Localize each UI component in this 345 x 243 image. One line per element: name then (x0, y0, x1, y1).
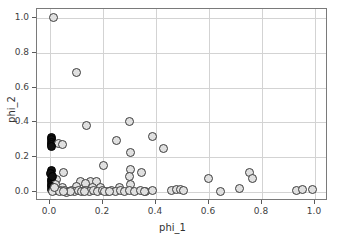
data-point (248, 174, 257, 183)
gridline-vertical (103, 9, 104, 199)
data-point (59, 168, 68, 177)
data-point (159, 144, 168, 153)
x-tick-mark (49, 200, 50, 204)
data-point (308, 185, 317, 194)
data-point (125, 117, 134, 126)
data-point (216, 187, 225, 196)
x-tick-mark (208, 200, 209, 204)
x-tick-mark (314, 200, 315, 204)
x-tick-label: 0.2 (95, 206, 109, 216)
y-tick-mark (32, 121, 36, 122)
y-tick-label: 0.0 (2, 186, 29, 196)
x-tick-label: 0.8 (254, 206, 268, 216)
y-tick-mark (32, 17, 36, 18)
data-point (137, 168, 146, 177)
gridline-horizontal (37, 157, 326, 158)
gridline-vertical (209, 9, 210, 199)
y-axis-label: phi_2 (6, 80, 17, 140)
data-point (99, 161, 108, 170)
data-point (126, 148, 135, 157)
x-tick-label: 0.4 (148, 206, 162, 216)
x-tick-mark (155, 200, 156, 204)
data-point (148, 186, 157, 195)
x-tick-mark (261, 200, 262, 204)
y-tick-mark (32, 156, 36, 157)
gridline-horizontal (37, 53, 326, 54)
y-tick-mark (32, 87, 36, 88)
x-axis-label: phi_1 (0, 222, 345, 233)
y-tick-mark (32, 191, 36, 192)
x-tick-label: 0.6 (201, 206, 215, 216)
data-point (179, 186, 188, 195)
data-point (49, 13, 58, 22)
gridline-horizontal (37, 18, 326, 19)
gridline-horizontal (37, 122, 326, 123)
data-point (80, 187, 89, 196)
x-tick-mark (102, 200, 103, 204)
data-point (47, 142, 56, 151)
data-point (58, 140, 67, 149)
gridline-vertical (262, 9, 263, 199)
x-tick-label: 1.0 (307, 206, 321, 216)
gridline-vertical (315, 9, 316, 199)
data-point (72, 68, 81, 77)
y-tick-label: 0.8 (2, 47, 29, 57)
y-tick-mark (32, 52, 36, 53)
gridline-horizontal (37, 88, 326, 89)
data-point (235, 184, 244, 193)
x-tick-label: 0.0 (42, 206, 56, 216)
y-tick-label: 1.0 (2, 12, 29, 22)
data-point (204, 174, 213, 183)
gridline-vertical (156, 9, 157, 199)
data-point (82, 121, 91, 130)
y-tick-label: 0.2 (2, 151, 29, 161)
data-point (112, 136, 121, 145)
plot-area (36, 8, 327, 200)
scatter-plot-figure: 0.00.20.40.60.81.00.00.20.40.60.81.0 phi… (0, 0, 345, 243)
